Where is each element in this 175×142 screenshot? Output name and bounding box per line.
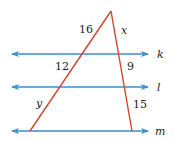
segment-left-mid: 12 [55, 60, 69, 73]
label-l: l [157, 81, 161, 94]
label-k: k [157, 48, 164, 61]
segment-right-bottom: 15 [133, 98, 147, 111]
label-m: m [155, 125, 165, 138]
segment-left-top: 16 [79, 23, 93, 36]
segment-right-top: x [121, 24, 128, 37]
segment-right-mid: 9 [127, 60, 134, 73]
segment-left-bottom: y [35, 97, 43, 110]
diagram-canvas: k l m 16 12 y x 9 15 [0, 0, 175, 142]
triangle-left-side [30, 11, 111, 131]
